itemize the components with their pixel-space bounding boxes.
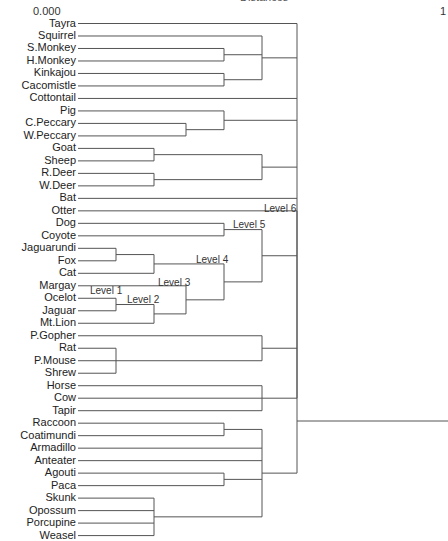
level-3-label: Level 3 (158, 277, 191, 288)
level-1-label: Level 1 (90, 285, 123, 296)
level-4-label: Level 4 (196, 254, 229, 265)
level-6-label: Level 6 (264, 203, 297, 214)
level-2-label: Level 2 (127, 294, 160, 305)
dendrogram: Level 1 Level 2 Level 3 Level 4 Level 5 … (0, 0, 448, 541)
level-5-label: Level 5 (233, 219, 266, 230)
